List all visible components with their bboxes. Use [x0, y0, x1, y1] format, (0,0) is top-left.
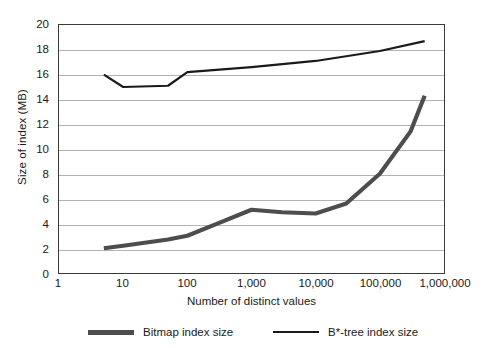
legend-label: B*-tree index size [328, 326, 418, 338]
y-tick-label: 18 [22, 43, 54, 55]
x-tick-label: 100 [177, 277, 196, 289]
chart-legend: Bitmap index sizeB*-tree index size [58, 322, 458, 344]
series-line [104, 96, 425, 249]
y-tick-label: 14 [22, 93, 54, 105]
x-tick-label: 100,000 [360, 277, 402, 289]
y-tick-label: 20 [22, 18, 54, 30]
y-tick-label: 4 [22, 218, 54, 230]
series-lines [59, 25, 444, 273]
legend-item: B*-tree index size [273, 322, 418, 342]
x-tick-label: 1 [55, 277, 61, 289]
x-axis-tick-labels: 1101001,00010,000100,0001,000,000 [58, 277, 445, 293]
x-tick-label: 1,000 [237, 277, 266, 289]
x-tick-label: 10 [116, 277, 129, 289]
legend-item: Bitmap index size [88, 322, 233, 342]
y-tick-label: 10 [22, 143, 54, 155]
series-line [104, 41, 425, 87]
y-tick-label: 16 [22, 68, 54, 80]
plot-area [58, 24, 445, 274]
y-tick-label: 12 [22, 118, 54, 130]
y-tick-label: 8 [22, 168, 54, 180]
legend-swatch-btree [273, 331, 319, 333]
x-tick-label: 10,000 [298, 277, 333, 289]
x-axis-title: Number of distinct values [58, 295, 445, 307]
y-tick-label: 0 [22, 268, 54, 280]
legend-label: Bitmap index size [143, 326, 233, 338]
y-tick-label: 2 [22, 243, 54, 255]
x-tick-label: 1,000,000 [419, 277, 470, 289]
chart-figure: Size of index (MB) 02468101214161820 110… [0, 0, 491, 348]
legend-swatch-bitmap [88, 330, 134, 335]
y-tick-label: 6 [22, 193, 54, 205]
y-axis-tick-labels: 02468101214161820 [22, 24, 54, 274]
